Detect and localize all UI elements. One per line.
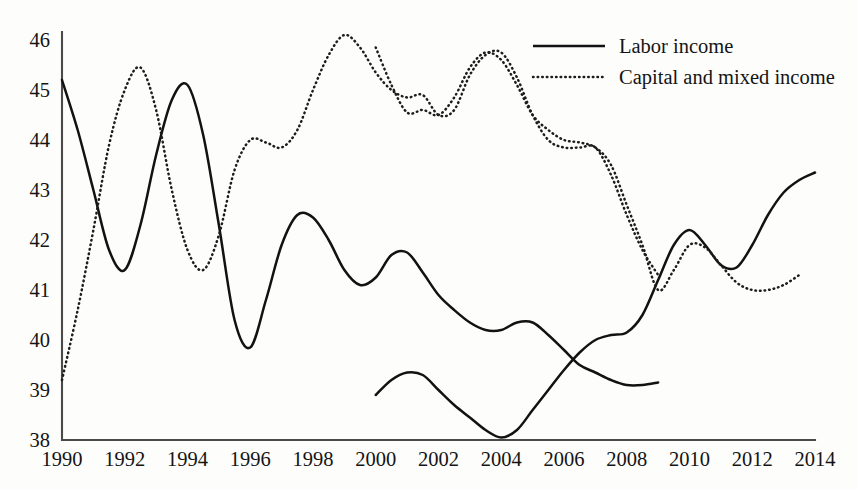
- y-tick-label: 46: [30, 29, 51, 51]
- series-line-1: [62, 80, 658, 385]
- y-tick-label: 41: [30, 279, 51, 301]
- x-tick-label: 2010: [669, 448, 710, 470]
- x-tick-label: 2000: [355, 448, 396, 470]
- legend-label: Capital and mixed income: [619, 66, 835, 89]
- x-tick-label: 2002: [418, 448, 459, 470]
- legend-label: Labor income: [619, 35, 733, 57]
- y-tick-label: 45: [30, 79, 51, 101]
- x-tick-label: 1994: [167, 448, 208, 470]
- y-tick-label: 39: [30, 379, 51, 401]
- x-tick-label: 1996: [230, 448, 271, 470]
- x-tick-label: 2006: [544, 448, 585, 470]
- y-tick-label: 43: [30, 179, 51, 201]
- x-tick-label: 2014: [795, 448, 836, 470]
- series-line-3: [62, 35, 658, 380]
- x-tick-label: 1998: [293, 448, 334, 470]
- y-tick-label: 44: [30, 129, 51, 151]
- data-series-layer: [62, 35, 815, 438]
- chart-canvas: 383940414243444546 199019921994199619982…: [0, 0, 858, 490]
- y-tick-label: 42: [30, 229, 51, 251]
- x-tick-label: 1990: [42, 448, 83, 470]
- chart-legend: Labor incomeCapital and mixed income: [533, 35, 835, 89]
- x-tick-label: 1992: [104, 448, 145, 470]
- x-tick-label: 2012: [732, 448, 773, 470]
- series-line-2: [376, 173, 815, 438]
- y-tick-label: 40: [30, 329, 51, 351]
- x-tick-label: 2008: [606, 448, 647, 470]
- y-axis-tick-labels: 383940414243444546: [30, 29, 51, 451]
- x-axis-tick-labels: 1990199219941996199820002002200420062008…: [42, 448, 836, 470]
- x-tick-label: 2004: [481, 448, 522, 470]
- chart-container: 383940414243444546 199019921994199619982…: [0, 0, 858, 490]
